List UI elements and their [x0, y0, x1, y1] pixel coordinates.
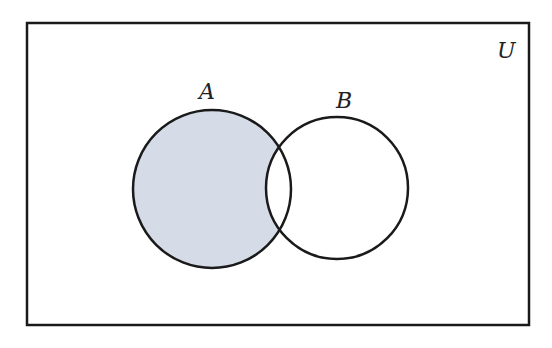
universe-rectangle	[27, 23, 529, 325]
set-b-label: B	[335, 88, 352, 113]
set-a-label: A	[197, 79, 215, 104]
venn-diagram: A B U	[0, 0, 552, 348]
universe-label: U	[497, 38, 517, 63]
